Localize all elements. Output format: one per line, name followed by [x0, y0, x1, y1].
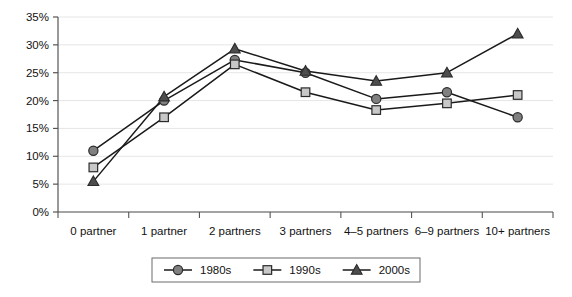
data-point-1980s-0: [89, 146, 98, 155]
data-point-1990s-1: [160, 113, 169, 122]
x-tick-label: 10+ partners: [485, 225, 550, 237]
data-point-2000s-5: [442, 67, 453, 77]
x-tick-label: 0 partner: [70, 225, 116, 237]
x-tick-label: 3 partners: [280, 225, 332, 237]
y-tick-label: 10%: [26, 150, 49, 162]
y-tick-labels: 0%5%10%15%20%25%30%35%: [26, 11, 49, 218]
line-chart: 0%5%10%15%20%25%30%35% 0 partner1 partne…: [0, 0, 572, 297]
data-point-2000s-1: [159, 91, 170, 101]
gridlines: [58, 17, 553, 212]
data-point-1990s-5: [443, 99, 452, 108]
data-point-1990s-2: [230, 60, 239, 69]
x-tick-label: 4–5 partners: [344, 225, 409, 237]
x-tick-label: 6–9 partners: [415, 225, 480, 237]
series-lines: [93, 34, 517, 182]
series-line-2000s: [93, 34, 517, 182]
y-tick-label: 15%: [26, 122, 49, 134]
data-point-1990s-6: [513, 91, 522, 100]
series-line-1990s: [93, 64, 517, 167]
data-point-1990s-3: [301, 88, 310, 97]
legend-label-2000s: 2000s: [379, 264, 411, 276]
y-tick-label: 30%: [26, 39, 49, 51]
y-tick-label: 5%: [32, 178, 49, 190]
y-tick-label: 0%: [32, 206, 49, 218]
y-tick-label: 25%: [26, 67, 49, 79]
data-point-1980s-5: [442, 88, 451, 97]
data-point-2000s-6: [512, 28, 523, 38]
y-axis: [53, 17, 58, 212]
data-point-1990s-4: [372, 106, 381, 115]
data-point-1980s-6: [513, 113, 522, 122]
legend-label-1990s: 1990s: [289, 264, 321, 276]
legend-marker-1980s: [173, 265, 182, 274]
data-point-1990s-0: [89, 163, 98, 172]
x-tick-labels: 0 partner1 partner2 partners3 partners4–…: [70, 225, 550, 237]
data-point-1980s-4: [372, 94, 381, 103]
x-tick-label: 1 partner: [141, 225, 187, 237]
chart-container: 0%5%10%15%20%25%30%35% 0 partner1 partne…: [0, 0, 572, 297]
legend-marker-1990s: [263, 266, 272, 275]
legend-label-1980s: 1980s: [200, 264, 232, 276]
x-tick-label: 2 partners: [209, 225, 261, 237]
y-tick-label: 35%: [26, 11, 49, 23]
series-markers: [88, 28, 523, 185]
chart-legend: 1980s1990s2000s: [152, 258, 420, 282]
y-tick-label: 20%: [26, 95, 49, 107]
x-axis: [58, 212, 553, 218]
